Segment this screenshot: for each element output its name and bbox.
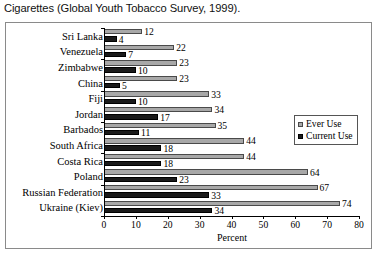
chart-frame: Sri Lanka124Venezuela227Zimbabwe2310Chin…	[5, 22, 372, 249]
bar-ever-use	[104, 138, 244, 143]
bar-value-ever-use: 74	[342, 199, 352, 209]
bar-current-use	[104, 99, 136, 104]
bar-row: Poland6423	[6, 168, 371, 184]
figure-caption: Cigarettes (Global Youth Tobacco Survey,…	[4, 1, 378, 15]
bar-value-current-use: 34	[214, 206, 224, 216]
bar-pair: 4418	[104, 153, 359, 169]
y-axis-tick	[101, 28, 104, 29]
bar-ever-use	[104, 169, 308, 174]
category-label: Ukraine (Kiev)	[39, 202, 103, 213]
y-axis-line	[104, 28, 105, 216]
bar-current-use	[104, 36, 117, 41]
bar-row: Sri Lanka124	[6, 28, 371, 44]
x-axis-tick-label: 0	[102, 220, 107, 230]
y-axis-tick	[101, 216, 104, 217]
bar-row: Fiji3310	[6, 90, 371, 106]
category-label: Sri Lanka	[62, 30, 103, 41]
x-axis-tick-label: 60	[290, 220, 300, 230]
bar-ever-use	[104, 91, 209, 96]
y-axis-tick	[101, 91, 104, 92]
legend-label-ever-use: Ever Use	[306, 118, 341, 130]
bar-ever-use	[104, 107, 212, 112]
category-label: Costa Rica	[57, 155, 103, 166]
bar-current-use	[104, 114, 158, 119]
bar-pair: 235	[104, 75, 359, 91]
bar-value-ever-use: 12	[144, 27, 154, 37]
bar-current-use	[104, 130, 139, 135]
category-label: Poland	[74, 171, 103, 182]
plot-area: Sri Lanka124Venezuela227Zimbabwe2310Chin…	[6, 23, 371, 248]
bar-current-use	[104, 52, 126, 57]
legend-item-ever-use: Ever Use	[298, 118, 353, 130]
bar-value-ever-use: 22	[176, 43, 186, 53]
x-axis-tick-label: 80	[354, 220, 364, 230]
legend-swatch-ever-use	[298, 122, 303, 127]
x-axis-tick-label: 20	[163, 220, 173, 230]
x-axis-tick-label: 70	[322, 220, 332, 230]
y-axis-tick	[101, 153, 104, 154]
bar-value-ever-use: 44	[246, 136, 256, 146]
bar-current-use	[104, 83, 120, 88]
bar-current-use	[104, 145, 161, 150]
bar-row: China235	[6, 75, 371, 91]
bar-ever-use	[104, 45, 174, 50]
bar-ever-use	[104, 123, 216, 128]
x-axis-tick-label: 40	[227, 220, 237, 230]
bar-pair: 124	[104, 28, 359, 44]
category-label: Venezuela	[60, 46, 103, 57]
bar-value-ever-use: 64	[310, 168, 320, 178]
bar-ever-use	[104, 76, 177, 81]
bar-value-ever-use: 67	[320, 183, 330, 193]
bar-pair: 2310	[104, 59, 359, 75]
bar-row: Russian Federation6733	[6, 184, 371, 200]
category-label: Fiji	[88, 93, 103, 104]
x-axis-tick-label: 30	[195, 220, 205, 230]
bar-current-use	[104, 67, 136, 72]
bar-row: Ukraine (Kiev)7434	[6, 200, 371, 216]
bar-value-ever-use: 44	[246, 152, 256, 162]
category-label: Barbados	[63, 124, 103, 135]
category-label: South Africa	[50, 139, 103, 150]
bar-pair: 3310	[104, 90, 359, 106]
bar-pair: 227	[104, 44, 359, 60]
category-label: China	[78, 77, 103, 88]
legend-label-current-use: Current Use	[306, 130, 353, 142]
y-axis-tick	[101, 185, 104, 186]
category-label: Zimbabwe	[58, 61, 103, 72]
bar-current-use	[104, 161, 161, 166]
bar-value-ever-use: 33	[211, 90, 221, 100]
bar-ever-use	[104, 154, 244, 159]
bar-row: Costa Rica4418	[6, 153, 371, 169]
legend-swatch-current-use	[298, 134, 303, 139]
bar-current-use	[104, 192, 209, 197]
chart-legend: Ever Use Current Use	[294, 115, 358, 145]
bar-value-ever-use: 23	[179, 58, 189, 68]
y-axis-tick	[101, 122, 104, 123]
bar-pair: 7434	[104, 200, 359, 216]
clipped-footer-text	[4, 256, 378, 265]
bar-current-use	[104, 208, 212, 213]
y-axis-tick	[101, 59, 104, 60]
x-axis-tick-label: 10	[131, 220, 141, 230]
category-label: Jordan	[75, 108, 103, 119]
bar-value-ever-use: 23	[179, 74, 189, 84]
bar-current-use	[104, 177, 177, 182]
x-axis-tick-label: 50	[259, 220, 269, 230]
x-axis-label: Percent	[104, 232, 360, 243]
bar-value-ever-use: 35	[218, 121, 228, 131]
bar-value-ever-use: 34	[214, 105, 224, 115]
legend-item-current-use: Current Use	[298, 130, 353, 142]
category-label: Russian Federation	[22, 186, 103, 197]
bar-pair: 6733	[104, 184, 359, 200]
